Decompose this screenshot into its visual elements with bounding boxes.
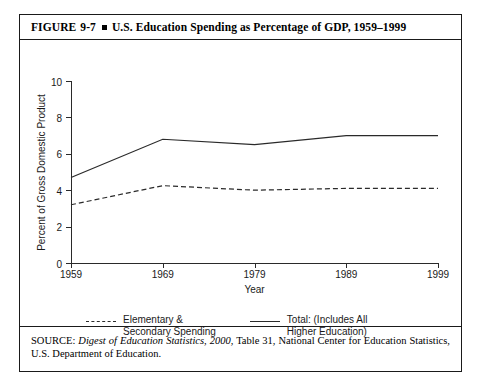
series-lines [71, 81, 438, 263]
x-axis-title: Year [71, 284, 438, 295]
source-divider [20, 326, 461, 327]
figure-number: 9-7 [80, 21, 96, 33]
source-note: SOURCE: Digest of Education Statistics, … [31, 334, 450, 360]
figure-title-text: U.S. Education Spending as Percentage of… [112, 21, 406, 33]
x-tick-label: 1959 [60, 269, 82, 280]
page-title: FIGURE9-7U.S. Education Spending as Perc… [31, 21, 406, 33]
y-tick-label: 4 [56, 185, 62, 196]
x-tick [255, 263, 256, 268]
chart-region: Percent of Gross Domestic Product 024681… [20, 40, 461, 326]
figure-box: FIGURE9-7U.S. Education Spending as Perc… [19, 14, 462, 372]
square-bullet-icon [102, 25, 107, 30]
x-tick-label: 1989 [335, 269, 357, 280]
figure-title-bar: FIGURE9-7U.S. Education Spending as Perc… [20, 15, 461, 40]
y-tick-label: 8 [56, 112, 62, 123]
x-tick [71, 263, 72, 268]
x-tick [346, 263, 347, 268]
legend-line-sample [86, 314, 116, 326]
legend-line-sample [250, 314, 280, 326]
y-axis-title: Percent of Gross Domestic Product [34, 81, 48, 263]
y-tick-label: 2 [56, 222, 62, 233]
x-tick-label: 1979 [243, 269, 265, 280]
figure-label: FIGURE [31, 21, 76, 33]
source-prefix: SOURCE: [31, 335, 78, 346]
y-tick-label: 6 [56, 149, 62, 160]
x-tick [163, 263, 164, 268]
x-tick-label: 1969 [152, 269, 174, 280]
x-tick [438, 263, 439, 268]
y-tick-label: 10 [51, 76, 62, 87]
series-line [71, 136, 438, 178]
plot-area: 0246810 19591969197919891999 [71, 81, 438, 263]
source-publication: Digest of Education Statistics, 2000 [78, 335, 230, 346]
x-tick-label: 1999 [427, 269, 449, 280]
series-line [71, 186, 438, 205]
y-tick-label: 0 [56, 258, 62, 269]
